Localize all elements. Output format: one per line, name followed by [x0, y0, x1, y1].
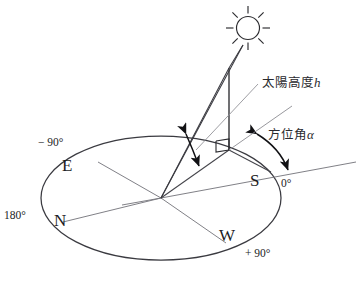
degree-0-label: 0° — [281, 178, 291, 190]
solar-altitude-label: 太陽高度h — [262, 76, 321, 90]
solar-altitude-text: 太陽高度 — [262, 75, 314, 90]
compass-east-label: E — [62, 157, 72, 174]
altitude-leader-line — [196, 84, 258, 150]
solar-azimuth-label: 方位角α — [268, 128, 314, 142]
solar-azimuth-text: 方位角 — [268, 127, 307, 142]
compass-north-label: N — [54, 212, 66, 229]
ray-north — [63, 198, 161, 222]
ray-west — [161, 198, 226, 243]
pole-top-to-origin — [161, 68, 229, 198]
ray-east — [98, 162, 161, 198]
compass-south-label: S — [250, 172, 259, 189]
sun-icon — [226, 6, 270, 50]
south-azimuth-axis — [122, 162, 356, 205]
solar-azimuth-symbol: α — [307, 127, 314, 142]
solar-altitude-symbol: h — [314, 75, 321, 90]
figure-canvas: 太陽高度h 方位角α − 90° E 180° N S 0° W + 90° — [0, 0, 356, 283]
sun-ray-lines — [161, 45, 243, 198]
degree-minus-90-label: − 90° — [38, 137, 63, 149]
degree-plus-90-label: + 90° — [245, 248, 270, 260]
degree-180-label: 180° — [4, 210, 26, 222]
cardinal-direction-rays — [63, 162, 226, 243]
compass-west-label: W — [219, 227, 235, 244]
